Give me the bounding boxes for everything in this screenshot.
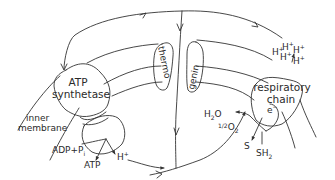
inner-membrane-label-line1: inner xyxy=(26,113,49,123)
atp-synthetase-label-line1: ATP xyxy=(68,76,87,88)
chemiosmotic-diagram: ATP synthetase ADP+Pi ATP H+ inner membr… xyxy=(0,0,335,180)
proton-circulation-arc xyxy=(61,11,282,70)
h-plus-synthase-label: H+ xyxy=(117,150,129,162)
atp-product-label: ATP xyxy=(84,160,101,170)
thermogenin-proton-path xyxy=(174,11,183,168)
respiratory-chain-label-line1: respiratory xyxy=(253,81,310,93)
proton-4: H+ xyxy=(280,50,292,62)
water-label: H2O xyxy=(204,109,222,121)
adp-pi-label: ADP+Pi xyxy=(52,145,85,157)
respiratory-chain: respiratory chain xyxy=(251,77,310,126)
proton-5: H+ xyxy=(293,54,305,66)
substrate-s-label: S xyxy=(244,141,250,151)
substrate-sh2-label: SH2 xyxy=(256,148,272,160)
respiratory-chain-label-line2: chain xyxy=(267,93,295,105)
atp-synthetase: ATP synthetase xyxy=(52,64,125,154)
electron-label: e− xyxy=(267,103,278,115)
proton-cluster: H+ H+ H+ H+ H+ xyxy=(272,40,305,66)
thermogenin-label-left: thermo xyxy=(156,45,173,79)
half-oxygen-label: 1/2O2 xyxy=(218,122,239,134)
inner-membrane-label-line2: membrane xyxy=(18,123,68,133)
atp-synthetase-label-line2: synthetase xyxy=(52,88,110,100)
